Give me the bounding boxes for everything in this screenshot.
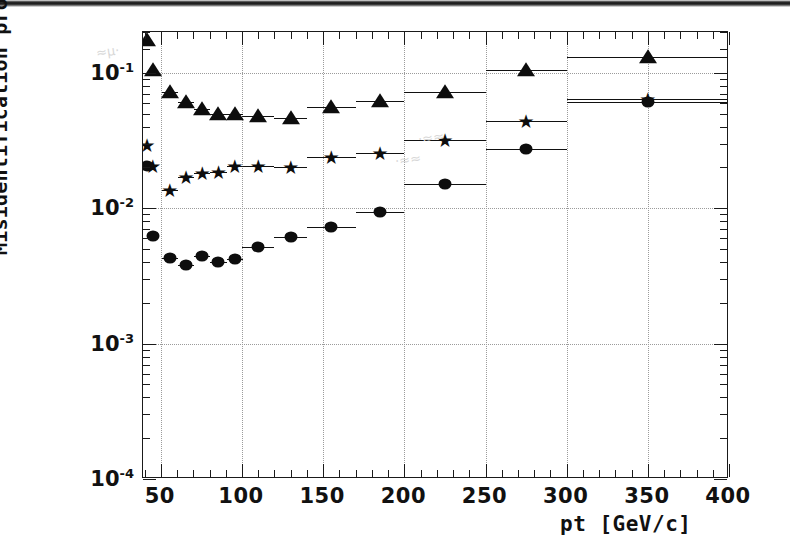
y-minor-tick (143, 229, 150, 230)
y-minor-tick (720, 127, 727, 128)
x-minor-tick (518, 470, 519, 477)
y-minor-tick (720, 374, 727, 375)
x-minor-tick (274, 470, 275, 477)
x-minor-tick (145, 470, 146, 477)
plot-frame: ★★★★★★★★★★★★★★ (142, 31, 728, 478)
x-tick-label: 300 (543, 484, 588, 508)
y-minor-tick (143, 214, 150, 215)
y-minor-tick (720, 221, 727, 222)
x-minor-tick (469, 470, 470, 477)
x-minor-tick (339, 32, 340, 39)
y-minor-tick (720, 303, 727, 304)
y-major-tick (143, 73, 156, 74)
y-minor-tick (143, 167, 150, 168)
circle-marker (252, 241, 265, 252)
x-minor-tick (550, 32, 551, 39)
scan-edge-artifact (0, 0, 790, 7)
gridline-horizontal (143, 208, 727, 209)
y-major-tick (714, 208, 727, 209)
x-minor-tick (291, 32, 292, 39)
y-minor-tick (143, 103, 150, 104)
x-major-tick (161, 32, 162, 45)
y-major-tick (143, 344, 156, 345)
x-minor-tick (307, 32, 308, 39)
x-minor-tick (226, 32, 227, 39)
y-minor-tick (720, 79, 727, 80)
x-minor-tick (193, 32, 194, 39)
y-tick-label: 10-4 (66, 466, 134, 491)
y-minor-tick (143, 94, 150, 95)
x-minor-tick (210, 470, 211, 477)
circle-marker (180, 260, 193, 271)
x-minor-tick (599, 470, 600, 477)
x-minor-tick (453, 32, 454, 39)
x-major-tick (648, 32, 649, 45)
y-minor-tick (143, 384, 150, 385)
triangle-marker (226, 106, 244, 120)
x-tick-label: 350 (624, 484, 669, 508)
x-tick-label: 50 (145, 484, 175, 508)
x-minor-tick (145, 32, 146, 39)
y-minor-tick (143, 262, 150, 263)
x-minor-tick (177, 32, 178, 39)
star-marker: ★ (435, 130, 454, 149)
y-minor-tick (143, 49, 150, 50)
x-minor-tick (713, 470, 714, 477)
triangle-marker (322, 99, 340, 113)
y-minor-tick (720, 397, 727, 398)
x-minor-tick (664, 32, 665, 39)
y-minor-tick (720, 86, 727, 87)
x-minor-tick (210, 32, 211, 39)
x-minor-tick (193, 470, 194, 477)
triangle-marker (282, 111, 300, 125)
x-minor-tick (437, 470, 438, 477)
circle-marker (228, 254, 241, 265)
y-minor-tick (143, 279, 150, 280)
x-tick-label: 100 (218, 484, 263, 508)
x-minor-tick (372, 470, 373, 477)
x-minor-tick (469, 32, 470, 39)
triangle-marker (517, 62, 535, 76)
y-minor-tick (143, 414, 150, 415)
circle-marker (146, 231, 159, 242)
x-minor-tick (421, 470, 422, 477)
x-minor-tick (502, 32, 503, 39)
x-minor-tick (291, 470, 292, 477)
y-major-tick (714, 479, 727, 480)
y-minor-tick (720, 365, 727, 366)
circle-marker (284, 232, 297, 243)
x-major-tick (161, 464, 162, 477)
x-minor-tick (713, 32, 714, 39)
y-minor-tick (720, 167, 727, 168)
y-minor-tick (143, 238, 150, 239)
x-major-tick (648, 464, 649, 477)
y-minor-tick (143, 350, 150, 351)
y-minor-tick (720, 279, 727, 280)
y-axis-title: Misidentification probability (0, 0, 12, 255)
y-minor-tick (720, 249, 727, 250)
circle-marker (325, 222, 338, 233)
circle-marker (438, 178, 451, 189)
y-minor-tick (143, 32, 150, 33)
triangle-marker (249, 108, 267, 122)
scan-smudge: ≈μ· (95, 42, 120, 60)
y-minor-tick (143, 303, 150, 304)
x-minor-tick (437, 32, 438, 39)
x-minor-tick (632, 32, 633, 39)
y-major-tick (714, 344, 727, 345)
y-minor-tick (720, 350, 727, 351)
x-minor-tick (177, 470, 178, 477)
y-minor-tick (143, 127, 150, 128)
x-minor-tick (258, 32, 259, 39)
x-minor-tick (632, 470, 633, 477)
x-minor-tick (356, 470, 357, 477)
gridline-vertical (161, 32, 162, 477)
x-major-tick (567, 464, 568, 477)
x-major-tick (404, 464, 405, 477)
x-major-tick (323, 32, 324, 45)
circle-marker (212, 257, 225, 268)
x-tick-label: 200 (381, 484, 426, 508)
x-minor-tick (697, 32, 698, 39)
x-major-tick (486, 464, 487, 477)
y-minor-tick (143, 86, 150, 87)
